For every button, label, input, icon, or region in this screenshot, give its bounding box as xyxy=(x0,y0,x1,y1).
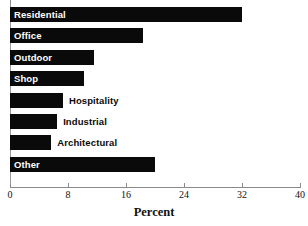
x-axis-tick xyxy=(300,183,301,188)
x-axis-tick-label: 8 xyxy=(66,189,71,200)
plot-area: ResidentialOfficeOutdoorShopHospitalityI… xyxy=(0,6,308,186)
bar-row: Shop xyxy=(0,71,308,86)
bar-row: Industrial xyxy=(0,114,308,129)
bar xyxy=(10,135,51,150)
x-axis-title: Percent xyxy=(0,205,308,220)
bar-chart: ResidentialOfficeOutdoorShopHospitalityI… xyxy=(0,0,308,226)
bar-row: Office xyxy=(0,28,308,43)
bar-label: Hospitality xyxy=(69,93,119,108)
x-axis-tick xyxy=(10,183,11,188)
bar xyxy=(10,93,63,108)
bar-label: Shop xyxy=(14,71,38,86)
x-axis-tick xyxy=(68,183,69,188)
bar-row: Residential xyxy=(0,7,308,22)
x-axis-tick xyxy=(242,183,243,188)
x-axis-tick xyxy=(126,183,127,188)
x-axis-tick-label: 0 xyxy=(8,189,13,200)
bar-label: Other xyxy=(14,157,40,172)
x-axis-tick-label: 32 xyxy=(237,189,247,200)
x-axis-tick-label: 16 xyxy=(121,189,131,200)
bar-label: Residential xyxy=(14,7,66,22)
bar-row: Hospitality xyxy=(0,93,308,108)
x-axis-tick-label: 24 xyxy=(179,189,189,200)
bar-label: Industrial xyxy=(63,114,107,129)
bar-label: Architectural xyxy=(57,135,117,150)
bar-row: Architectural xyxy=(0,135,308,150)
bar xyxy=(10,114,57,129)
bar-label: Outdoor xyxy=(14,50,52,65)
x-axis-tick xyxy=(184,183,185,188)
x-axis-line xyxy=(10,187,300,188)
bar-row: Other xyxy=(0,157,308,172)
x-axis-tick-label: 40 xyxy=(295,189,305,200)
bar-label: Office xyxy=(14,28,42,43)
bar-row: Outdoor xyxy=(0,50,308,65)
